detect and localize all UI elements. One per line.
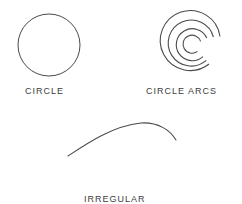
circle-arcs-label: CIRCLE ARCS: [146, 86, 217, 97]
circle-shape: [18, 14, 80, 76]
irregular-curve-shape: [68, 123, 176, 156]
arc-ring-3: [168, 20, 213, 66]
figure-canvas: CIRCLE CIRCLE ARCS IRREGULAR CURVE ARC: [0, 0, 242, 204]
arc-ring-2: [176, 29, 207, 61]
arc-ring-1: [183, 35, 201, 53]
irregular-curve-label-line1: IRREGULAR: [84, 194, 146, 204]
irregular-curve-label: IRREGULAR CURVE ARC: [84, 172, 146, 204]
circle-arcs-shape: [160, 11, 220, 71]
circle-label: CIRCLE: [25, 86, 64, 97]
